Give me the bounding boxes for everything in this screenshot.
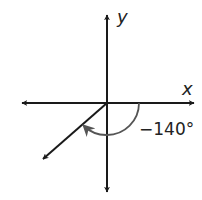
angle-diagram [0,0,202,200]
y-axis-label: y [117,8,128,26]
angle-measure-label: −140° [139,121,194,138]
angle-arc [84,103,139,135]
terminal-ray [43,103,107,159]
diagram-canvas: y x −140° [0,0,202,200]
x-axis-label: x [182,80,193,98]
